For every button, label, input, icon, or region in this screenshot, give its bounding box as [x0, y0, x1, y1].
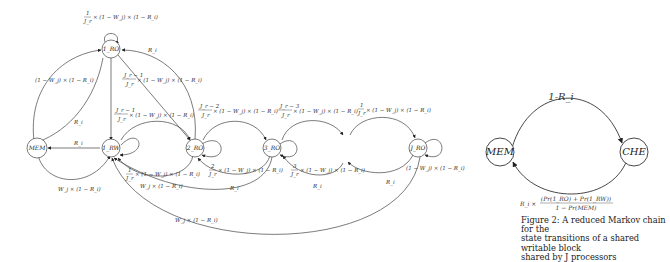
- label-to-roj-den: J_r: [357, 110, 366, 117]
- label-next-self-num: 3: [293, 163, 297, 169]
- caption-line-1: Figure 2: A reduced Markov chain for the: [521, 216, 669, 234]
- label-roj-back: R_i: [385, 179, 395, 186]
- label-next-self-rest: × (1 − W_j) × (1 − R_i): [300, 167, 365, 174]
- node-right-mem-label: MEM: [485, 146, 515, 157]
- label-ro3-to-rw1: W_j × (1 − R_i): [175, 217, 218, 224]
- node-1-ro-label: 1_RO: [103, 45, 119, 53]
- edge-ro2-self: [202, 141, 221, 157]
- label-ro1-self-rest: × (1 − W_j) × (1 − R_i): [93, 14, 158, 21]
- edge-rw1-self: [120, 138, 139, 155]
- edge-che-to-mem: [513, 160, 627, 194]
- edge-mem-to-che: [512, 98, 622, 148]
- label-mem-to-rw1: W_j × (1 − R_i): [58, 186, 101, 193]
- edge-next-to-roJ: [350, 117, 415, 138]
- label-ro2-self-den: J_r: [125, 175, 134, 182]
- label-to-roj-num: 1: [360, 102, 364, 108]
- label-ro1-to-ro2-den: J_r: [125, 81, 134, 88]
- caption-line-2: state transitions of a shared writable b…: [521, 234, 669, 252]
- label-ro1-self-num: 1: [86, 10, 90, 16]
- edge-mem-to-rw1: [38, 155, 110, 180]
- label-ro3-to-next-rest: × (1 − W_j) × (1 − R_i): [293, 108, 358, 115]
- edge-ro2-to-ro3: [203, 121, 266, 140]
- label-ro1-to-ro2-rest: × (1 − W_j) × (1 − R_i): [137, 77, 202, 84]
- label-to-roj-rest: × (1 − W_j) × (1 − R_i): [366, 107, 431, 114]
- label-che-to-mem-num: (Pr(1_RO) + Pr(1_RW)): [541, 195, 612, 203]
- node-1-rw-label: 1_RW: [102, 144, 120, 152]
- label-ro2-self-num: 1: [128, 167, 132, 173]
- label-ro2-to-ro3-rest: × (1 − W_j) × (1 − R_i): [213, 108, 278, 115]
- caption-line-3: shared by J processors: [521, 253, 669, 262]
- label-mem-to-ro1: (1 − W_j) × (1 − R_i): [35, 77, 94, 84]
- label-ro3-back: R_i: [229, 185, 239, 192]
- node-mem-label: MEM: [28, 144, 47, 151]
- node-2-ro-label: 2_RO: [186, 144, 203, 152]
- edge-rw1-to-ro2: [121, 121, 190, 140]
- label-next-back: R_i: [312, 183, 322, 190]
- label-rw1-to-ro2-rest: × (1 − W_j) × (1 − R_i): [129, 112, 194, 119]
- edge-mem-to-ro1: [33, 50, 101, 148]
- node-right-che-label: CHE: [622, 146, 646, 157]
- edge-ro3-to-next: [282, 121, 343, 140]
- label-rw1-to-mem: R_i: [73, 140, 83, 147]
- label-rw1-to-ro2-den: J_r: [117, 116, 126, 123]
- figure-caption: Figure 2: A reduced Markov chain for the…: [521, 216, 669, 262]
- edge-roJ-self: [425, 139, 442, 156]
- label-next-self-den: J_r: [290, 171, 299, 178]
- node-3-ro-label: 3_RO: [264, 144, 280, 152]
- label-ro3-self-den: J_r: [208, 171, 217, 178]
- label-che-to-mem-den: 1 − Pr(MEM): [556, 204, 598, 211]
- label-ro2-to-rw1: W_j × (1 − R_i): [140, 183, 183, 190]
- label-ro2-to-ro3-den: J_r: [201, 112, 210, 119]
- label-ro2-self-rest: × (1 − W_j) × (1 − R_i): [135, 171, 200, 178]
- label-roj-self: (1 − W_j) × (1 − R_i): [406, 165, 465, 172]
- edge-ro1-to-mem: [38, 58, 103, 142]
- label-ro2-to-ro1: R_i: [147, 47, 157, 54]
- label-ro3-to-next-den: J_r: [281, 112, 290, 119]
- label-ro3-self-num: 2: [210, 163, 215, 169]
- label-mem-to-che: 1-R_i: [548, 91, 573, 103]
- label-ro1-self-den: J_r: [83, 18, 92, 25]
- label-che-to-mem-prefix: R_i ×: [519, 200, 536, 208]
- node-j-ro-label: J_RO: [409, 144, 426, 152]
- edge-ro2-to-ro1: [122, 50, 195, 140]
- edge-ro3-self: [280, 141, 297, 157]
- label-ro3-self-rest: × (1 − W_j) × (1 − R_i): [218, 167, 283, 174]
- label-ro1-to-mem: R_i: [73, 119, 83, 126]
